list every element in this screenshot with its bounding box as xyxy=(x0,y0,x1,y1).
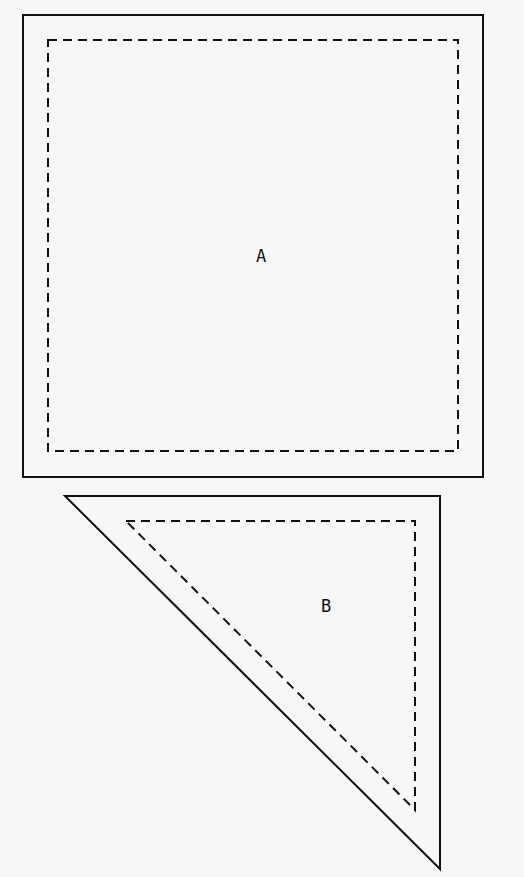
piece-a-label: A xyxy=(256,246,266,266)
piece-b-cut-line xyxy=(65,496,440,869)
piece-b-label: B xyxy=(321,596,331,616)
piece-b: B xyxy=(65,496,440,869)
pattern-diagram: A B xyxy=(0,0,524,877)
piece-a-cut-line xyxy=(23,15,483,477)
piece-a-seam-line xyxy=(48,40,458,451)
piece-a: A xyxy=(23,15,483,477)
piece-b-seam-line xyxy=(126,521,415,810)
